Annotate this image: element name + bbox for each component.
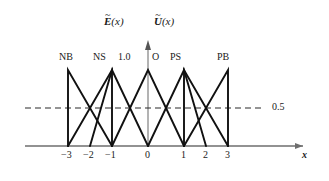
set-label-pb: PB bbox=[217, 52, 229, 62]
xtick-label-neg2: −2 bbox=[83, 150, 94, 160]
xtick-label-0: 0 bbox=[145, 150, 150, 160]
peak-level-label: 1.0 bbox=[118, 52, 131, 62]
set-label-ps: PS bbox=[170, 52, 181, 62]
plot-canvas bbox=[0, 0, 329, 181]
fuzzy-membership-figure: ~ E (x) ~ U (x) bbox=[0, 0, 329, 181]
xtick-label-neg1: −1 bbox=[105, 150, 116, 160]
set-label-o: O bbox=[152, 52, 159, 62]
xtick-label-1: 1 bbox=[181, 150, 186, 160]
xtick-label-neg3: −3 bbox=[61, 150, 72, 160]
x-axis-label: x bbox=[302, 150, 307, 160]
xtick-label-2: 2 bbox=[203, 150, 208, 160]
xtick-label-3: 3 bbox=[225, 150, 230, 160]
y-axis bbox=[145, 40, 151, 146]
half-level-label: 0.5 bbox=[272, 102, 285, 112]
set-label-ns: NS bbox=[93, 52, 106, 62]
set-label-nb: NB bbox=[59, 52, 73, 62]
